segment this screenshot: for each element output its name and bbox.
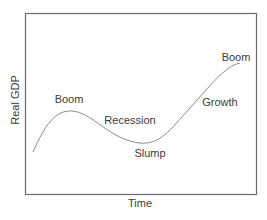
diagram-canvas [0, 0, 267, 220]
x-axis-label: Time [128, 197, 152, 209]
label-growth: Growth [202, 96, 237, 108]
y-axis-label: Real GDP [9, 75, 21, 125]
label-recession: Recession [104, 114, 155, 126]
label-slump: Slump [134, 147, 165, 159]
label-boom-1: Boom [55, 93, 84, 105]
label-boom-2: Boom [222, 51, 251, 63]
